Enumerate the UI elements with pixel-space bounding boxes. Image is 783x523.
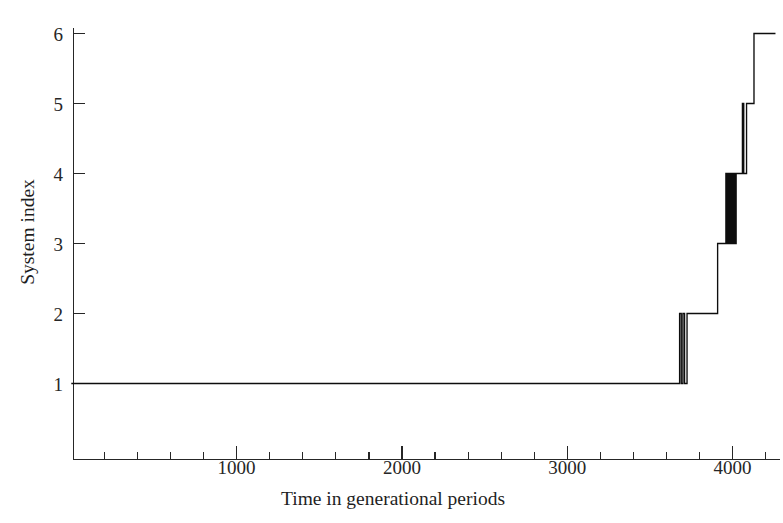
y-tick-label-6: 6 (54, 24, 64, 45)
x-tick-label-3000: 3000 (548, 457, 586, 478)
chart-figure: 6 5 4 3 2 1 (0, 0, 783, 523)
y-tick-label-2: 2 (54, 304, 64, 325)
x-tick-label-1000: 1000 (218, 457, 256, 478)
x-axis: 1000 2000 3000 4000 (73, 446, 780, 478)
x-tick-label-4000: 4000 (714, 457, 752, 478)
y-tick-label-4: 4 (54, 164, 64, 185)
y-tick-label-3: 3 (54, 234, 64, 255)
x-tick-label-2000: 2000 (383, 457, 421, 478)
y-tick-label-1: 1 (54, 374, 64, 395)
y-tick-label-5: 5 (54, 94, 64, 115)
y-axis: 6 5 4 3 2 1 (54, 24, 86, 460)
data-series-group (71, 34, 775, 384)
x-axis-title: Time in generational periods (281, 488, 505, 509)
series-system-index (71, 34, 775, 384)
line-chart-svg: 6 5 4 3 2 1 (0, 0, 783, 523)
y-axis-title: System index (17, 179, 38, 285)
